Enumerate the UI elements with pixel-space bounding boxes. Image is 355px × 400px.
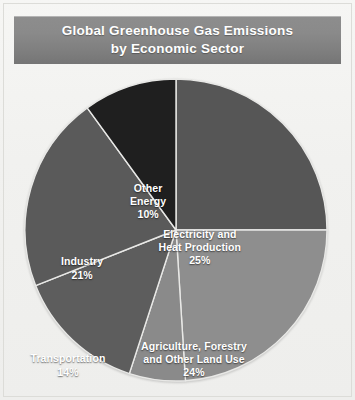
pie-slice-agriculture[interactable] bbox=[176, 230, 327, 381]
pie-chart-svg bbox=[24, 78, 328, 384]
chart-page: Global Greenhouse Gas Emissions by Econo… bbox=[0, 0, 355, 400]
pie-slice-electricity[interactable] bbox=[176, 79, 327, 230]
chart-title-line-2: by Economic Sector bbox=[111, 40, 244, 58]
chart-title-line-1: Global Greenhouse Gas Emissions bbox=[62, 22, 293, 40]
pie-chart: Electricity and Heat Production 25% Agri… bbox=[24, 78, 328, 384]
chart-title-banner: Global Greenhouse Gas Emissions by Econo… bbox=[14, 16, 341, 64]
